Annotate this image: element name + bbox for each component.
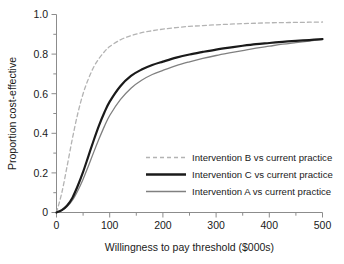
y-axis-title: Proportion cost-effective: [6, 57, 18, 170]
x-tick-label: 0: [54, 219, 60, 231]
y-tick-label: 0.2: [33, 167, 48, 179]
y-tick-label: 0.6: [33, 88, 48, 100]
x-tick-label: 400: [261, 219, 279, 231]
chart-figure: 010020030040050000.20.40.60.81.0 Interve…: [0, 0, 344, 264]
x-tick-label: 100: [101, 219, 119, 231]
cost-effectiveness-acceptability-curve-plot: 010020030040050000.20.40.60.81.0 Interve…: [0, 0, 344, 264]
y-tick-label: 0.4: [33, 127, 48, 139]
x-axis-title: Willingness to pay threshold ($000s): [105, 241, 274, 253]
y-tick-label: 1.0: [33, 8, 48, 20]
x-tick-label: 200: [154, 219, 172, 231]
y-tick-label: 0: [42, 206, 48, 218]
x-tick-label: 500: [314, 219, 332, 231]
legend-label: Intervention B vs current practice: [192, 152, 332, 163]
y-tick-label: 0.8: [33, 48, 48, 60]
x-tick-label: 300: [207, 219, 225, 231]
legend-label: Intervention A vs current practice: [192, 186, 331, 197]
series-line: [57, 22, 323, 212]
chart-legend: Intervention B vs current practiceInterv…: [146, 152, 333, 197]
data-series: [57, 22, 323, 212]
legend-label: Intervention C vs current practice: [192, 169, 333, 180]
